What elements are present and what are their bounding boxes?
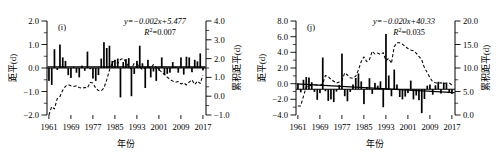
panel-label-j: (j)	[307, 22, 315, 32]
svg-text:0.0: 0.0	[28, 63, 39, 73]
svg-text:1969: 1969	[311, 122, 328, 132]
left-ticks-i	[42, 21, 48, 115]
svg-text:2.0: 2.0	[28, 16, 39, 26]
svg-text:−1.0: −1.0	[214, 110, 230, 120]
svg-text:1.0: 1.0	[214, 72, 225, 82]
r-squared-j: R2=0.035	[392, 27, 425, 37]
svg-text:4.0: 4.0	[277, 47, 288, 57]
svg-text:0.0: 0.0	[277, 79, 288, 89]
svg-text:−4.0: −4.0	[272, 110, 288, 120]
y-axis-title-right-j: 累积距平(d)	[480, 45, 491, 92]
svg-text:1977: 1977	[84, 122, 102, 132]
svg-text:2001: 2001	[399, 122, 416, 132]
chart-panel-j: 8.0 6.0 4.0 2.0 0.0 −2.0 −4.0 20.0 15.0 …	[249, 0, 498, 156]
right-ticks-j	[455, 21, 461, 115]
svg-text:2.0: 2.0	[214, 54, 225, 64]
svg-text:0.0: 0.0	[463, 110, 474, 120]
svg-text:−1.0: −1.0	[23, 87, 39, 97]
svg-text:−2.0: −2.0	[23, 110, 39, 120]
svg-text:1993: 1993	[377, 122, 394, 132]
y-axis-title-left-j: 距平(d)	[257, 54, 267, 83]
svg-text:20.0: 20.0	[463, 16, 478, 26]
cumulative-line-j	[298, 43, 452, 106]
svg-text:10.0: 10.0	[463, 63, 478, 73]
plot-area-j	[291, 21, 461, 115]
svg-text:15.0: 15.0	[463, 40, 478, 50]
svg-text:1.0: 1.0	[28, 40, 39, 50]
right-tick-labels-j: 20.0 15.0 10.0 5.0 0.0	[463, 16, 478, 120]
svg-text:2.0: 2.0	[277, 63, 288, 73]
left-ticks-j	[291, 21, 297, 115]
r-squared-value-i: =0.007	[152, 28, 176, 37]
svg-text:5.0: 5.0	[463, 87, 474, 97]
r-squared-i: R2=0.007	[143, 27, 176, 37]
svg-text:1961: 1961	[289, 122, 306, 132]
x-axis-title-i: 年份	[117, 138, 135, 149]
svg-text:4.0: 4.0	[214, 16, 225, 26]
x-tick-labels-i: 1961 1969 1977 1985 1993 2001 2009 2017	[40, 122, 212, 132]
bar-series-i	[48, 42, 204, 97]
svg-text:6.0: 6.0	[277, 32, 288, 42]
svg-text:3.0: 3.0	[214, 35, 225, 45]
svg-text:1985: 1985	[355, 122, 372, 132]
svg-text:1969: 1969	[62, 122, 79, 132]
svg-text:−2.0: −2.0	[272, 94, 288, 104]
svg-text:8.0: 8.0	[277, 16, 288, 26]
bar-series-j	[297, 34, 453, 113]
left-tick-labels-j: 8.0 6.0 4.0 2.0 0.0 −2.0 −4.0	[272, 16, 288, 120]
right-tick-labels-i: 4.0 3.0 2.0 1.0 0.0 −1.0	[214, 16, 230, 120]
svg-text:2017: 2017	[194, 122, 212, 132]
x-ticks-j	[298, 115, 452, 119]
chart-panel-i: 2.0 1.0 0.0 −1.0 −2.0 4.0 3.0 2.0 1.0 0.…	[0, 0, 249, 156]
svg-text:2009: 2009	[172, 122, 189, 132]
svg-text:2009: 2009	[421, 122, 438, 132]
svg-text:1993: 1993	[128, 122, 145, 132]
svg-text:1985: 1985	[106, 122, 123, 132]
plot-area-i	[42, 21, 212, 115]
y-axis-title-right-i: 累积距平(d)	[231, 45, 242, 92]
right-ticks-i	[206, 21, 212, 115]
svg-text:0.0: 0.0	[214, 91, 225, 101]
x-axis-title-j: 年份	[366, 138, 384, 149]
panel-label-i: (i)	[58, 22, 66, 32]
left-tick-labels-i: 2.0 1.0 0.0 −1.0 −2.0	[23, 16, 39, 120]
x-ticks-i	[49, 115, 203, 119]
regression-equation-j: y=−0.020x+40.33	[372, 17, 435, 26]
regression-equation-i: y=−0.002x+5.477	[123, 17, 187, 26]
r-squared-value-j: =0.035	[401, 28, 425, 37]
svg-text:1961: 1961	[40, 122, 57, 132]
figure-container: 2.0 1.0 0.0 −1.0 −2.0 4.0 3.0 2.0 1.0 0.…	[0, 0, 498, 156]
svg-text:2017: 2017	[443, 122, 461, 132]
chart-svg-j: 8.0 6.0 4.0 2.0 0.0 −2.0 −4.0 20.0 15.0 …	[249, 0, 498, 156]
x-tick-labels-j: 1961 1969 1977 1985 1993 2001 2009 2017	[289, 122, 461, 132]
y-axis-title-left-i: 距平(d)	[8, 54, 18, 83]
svg-text:2001: 2001	[150, 122, 167, 132]
chart-svg-i: 2.0 1.0 0.0 −1.0 −2.0 4.0 3.0 2.0 1.0 0.…	[0, 0, 249, 156]
svg-text:1977: 1977	[333, 122, 351, 132]
